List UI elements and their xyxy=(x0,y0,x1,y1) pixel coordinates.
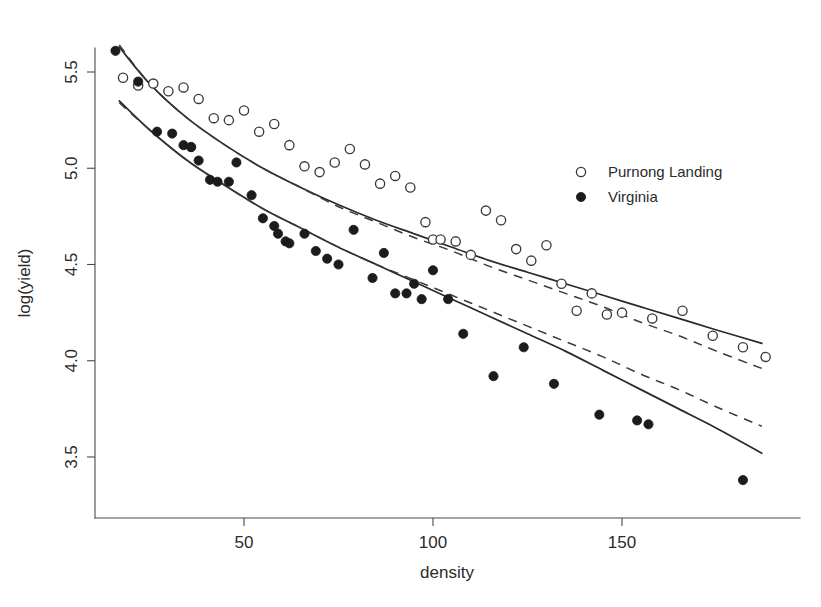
data-point-virginia xyxy=(232,158,241,167)
data-point-virginia xyxy=(402,289,411,298)
legend-label-purnong-landing: Purnong Landing xyxy=(608,163,722,180)
data-point-purnong-landing xyxy=(406,183,415,192)
data-point-virginia xyxy=(349,225,358,234)
data-point-virginia xyxy=(549,379,558,388)
series-points-virginia xyxy=(111,46,748,484)
legend: Purnong Landing Virginia xyxy=(576,163,722,205)
y-axis-title: log(yield) xyxy=(15,249,34,318)
data-point-virginia xyxy=(213,177,222,186)
data-point-virginia xyxy=(334,260,343,269)
fitted-curve-solid xyxy=(119,101,762,453)
data-point-purnong-landing xyxy=(421,218,430,227)
y-axis-ticks: 3.54.04.55.05.5 xyxy=(62,60,95,469)
data-point-virginia xyxy=(311,246,320,255)
x-tick-label: 50 xyxy=(235,533,254,552)
data-point-purnong-landing xyxy=(678,306,687,315)
data-point-virginia xyxy=(519,343,528,352)
y-tick-label: 3.5 xyxy=(62,445,81,469)
fitted-curve-solid xyxy=(119,47,762,343)
data-point-purnong-landing xyxy=(738,343,747,352)
data-point-purnong-landing xyxy=(542,241,551,250)
data-point-purnong-landing xyxy=(481,206,490,215)
x-axis-title: density xyxy=(420,563,474,582)
data-point-purnong-landing xyxy=(330,158,339,167)
data-point-virginia xyxy=(368,273,377,282)
data-point-purnong-landing xyxy=(270,119,279,128)
data-point-purnong-landing xyxy=(572,306,581,315)
data-point-virginia xyxy=(444,295,453,304)
data-point-virginia xyxy=(633,416,642,425)
data-point-purnong-landing xyxy=(285,141,294,150)
x-tick-label: 150 xyxy=(608,533,636,552)
data-point-purnong-landing xyxy=(451,237,460,246)
data-point-purnong-landing xyxy=(360,160,369,169)
data-point-purnong-landing xyxy=(761,352,770,361)
figure-root: 3.54.04.55.05.5 50100150 density log(yie… xyxy=(0,0,821,607)
data-point-purnong-landing xyxy=(602,310,611,319)
data-point-virginia xyxy=(595,410,604,419)
data-point-virginia xyxy=(323,254,332,263)
fitted-curve-dashed xyxy=(119,45,762,368)
data-point-purnong-landing xyxy=(224,116,233,125)
legend-marker-filled-circle xyxy=(576,192,585,201)
data-point-virginia xyxy=(247,191,256,200)
x-tick-label: 100 xyxy=(419,533,447,552)
data-point-virginia xyxy=(410,279,419,288)
legend-label-virginia: Virginia xyxy=(608,188,658,205)
data-point-virginia xyxy=(644,420,653,429)
y-tick-label: 5.0 xyxy=(62,156,81,180)
data-point-virginia xyxy=(168,129,177,138)
data-point-virginia xyxy=(273,229,282,238)
data-point-purnong-landing xyxy=(391,171,400,180)
data-point-virginia xyxy=(152,127,161,136)
data-point-purnong-landing xyxy=(466,250,475,259)
data-point-purnong-landing xyxy=(436,235,445,244)
data-point-purnong-landing xyxy=(557,279,566,288)
data-point-virginia xyxy=(428,266,437,275)
data-point-virginia xyxy=(391,289,400,298)
data-point-purnong-landing xyxy=(164,87,173,96)
data-point-virginia xyxy=(134,77,143,86)
data-point-virginia xyxy=(379,248,388,257)
data-point-purnong-landing xyxy=(209,114,218,123)
data-point-virginia xyxy=(417,295,426,304)
data-point-purnong-landing xyxy=(300,162,309,171)
data-point-purnong-landing xyxy=(617,308,626,317)
data-point-purnong-landing xyxy=(527,256,536,265)
data-point-virginia xyxy=(300,229,309,238)
data-point-purnong-landing xyxy=(194,94,203,103)
data-point-purnong-landing xyxy=(708,331,717,340)
data-point-purnong-landing xyxy=(496,216,505,225)
scatter-plot-canvas: 3.54.04.55.05.5 50100150 density log(yie… xyxy=(0,0,821,607)
plot-axes: 3.54.04.55.05.5 50100150 xyxy=(62,48,800,552)
data-point-purnong-landing xyxy=(149,79,158,88)
data-point-purnong-landing xyxy=(255,127,264,136)
data-point-purnong-landing xyxy=(648,314,657,323)
data-point-virginia xyxy=(738,476,747,485)
data-point-purnong-landing xyxy=(345,144,354,153)
data-point-purnong-landing xyxy=(512,245,521,254)
series-points-purnong-landing xyxy=(118,73,770,361)
legend-marker-open-circle xyxy=(576,167,585,176)
fitted-curve-dashed xyxy=(119,103,762,426)
data-point-purnong-landing xyxy=(179,83,188,92)
data-point-virginia xyxy=(186,142,195,151)
data-point-purnong-landing xyxy=(587,289,596,298)
data-point-purnong-landing xyxy=(375,179,384,188)
data-point-purnong-landing xyxy=(239,106,248,115)
data-point-virginia xyxy=(111,46,120,55)
x-axis-ticks: 50100150 xyxy=(235,518,637,552)
y-tick-label: 4.0 xyxy=(62,349,81,373)
data-point-virginia xyxy=(489,372,498,381)
data-point-virginia xyxy=(194,156,203,165)
fitted-curves-group xyxy=(119,45,762,453)
data-point-virginia xyxy=(258,214,267,223)
data-point-purnong-landing xyxy=(118,73,127,82)
y-tick-label: 5.5 xyxy=(62,60,81,84)
data-point-virginia xyxy=(224,177,233,186)
data-point-purnong-landing xyxy=(315,168,324,177)
data-point-virginia xyxy=(459,329,468,338)
data-point-virginia xyxy=(285,239,294,248)
y-tick-label: 4.5 xyxy=(62,253,81,277)
